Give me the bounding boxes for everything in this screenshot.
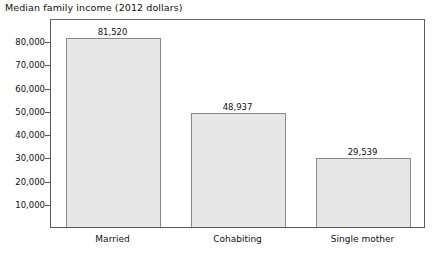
x-axis-category-label: Married: [50, 234, 175, 244]
y-axis-tick-label: 40,000: [15, 130, 45, 140]
y-axis-tick-mark: [45, 112, 50, 113]
bar-married: [66, 38, 161, 227]
bar-value-label: 29,539: [315, 147, 410, 157]
y-axis: 10,00020,00030,00040,00050,00060,00070,0…: [0, 0, 45, 262]
y-axis-tick-label: 30,000: [15, 153, 45, 163]
y-axis-tick-label: 50,000: [15, 107, 45, 117]
y-axis-tick-mark: [45, 65, 50, 66]
y-axis-tick-label: 70,000: [15, 60, 45, 70]
y-axis-tick-mark: [45, 135, 50, 136]
y-axis-tick-label: 80,000: [15, 37, 45, 47]
bar-single-mother: [316, 158, 411, 227]
y-axis-tick-mark: [45, 158, 50, 159]
x-axis-category-label: Single mother: [300, 234, 425, 244]
bar-value-label: 81,520: [65, 27, 160, 37]
plot-area: [50, 19, 425, 228]
bar-cohabiting: [191, 113, 286, 227]
y-axis-tick-mark: [45, 89, 50, 90]
y-axis-tick-label: 60,000: [15, 84, 45, 94]
y-axis-tick-mark: [45, 182, 50, 183]
bars-layer: [51, 20, 424, 227]
bar-chart: Median family income (2012 dollars) 10,0…: [0, 0, 436, 262]
y-axis-tick-label: 10,000: [15, 200, 45, 210]
bar-value-label: 48,937: [190, 102, 285, 112]
y-axis-tick-mark: [45, 205, 50, 206]
x-axis-category-label: Cohabiting: [175, 234, 300, 244]
y-axis-tick-mark: [45, 42, 50, 43]
y-axis-tick-label: 20,000: [15, 177, 45, 187]
